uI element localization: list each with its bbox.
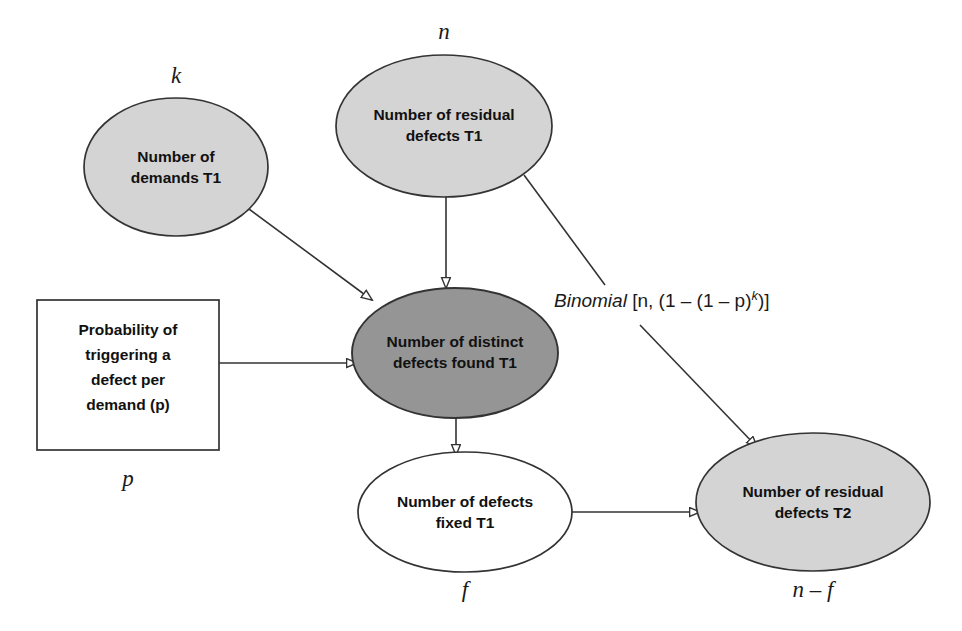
node-residual-t2-line2: defects T2 [775, 504, 852, 521]
node-demands-t1-line2: demands T1 [131, 169, 222, 186]
node-probability-box[interactable]: Probability of triggering a defect per d… [37, 300, 219, 491]
node-residual-t2-line1: Number of residual [742, 483, 883, 500]
edge-residual-t1-to-residual-t2-lower [640, 325, 757, 447]
node-demands-t1-shape[interactable] [84, 98, 268, 236]
node-residual-t2[interactable]: Number of residual defects T2 n – f [696, 433, 930, 602]
node-fixed-t1-line1: Number of defects [397, 493, 533, 510]
node-residual-t2-shape[interactable] [696, 433, 930, 571]
node-residual-t1[interactable]: Number of residual defects T1 n [336, 19, 552, 197]
node-demands-t1[interactable]: Number of demands T1 k [84, 63, 268, 236]
node-distinct-found-t1-line1: Number of distinct [387, 333, 524, 350]
node-demands-t1-line1: Number of [137, 148, 215, 165]
binomial-formula-name: Binomial [554, 290, 627, 311]
node-residual-t1-line1: Number of residual [373, 106, 514, 123]
edge-residual-t1-to-residual-t2-upper [524, 175, 605, 285]
node-probability-box-variable: p [120, 466, 134, 491]
edge-demands-to-distinct [245, 206, 372, 300]
binomial-formula-annotation: Binomial [n, (1 – (1 – p)k)] [551, 288, 773, 313]
node-residual-t1-line2: defects T1 [406, 127, 483, 144]
node-fixed-t1[interactable]: Number of defects fixed T1 f [358, 452, 572, 602]
bayesian-network-graph: Number of demands T1 k Number of residua… [0, 0, 962, 631]
node-distinct-found-t1-line2: defects found T1 [393, 354, 517, 371]
node-distinct-found-t1-shape[interactable] [352, 288, 558, 418]
node-probability-box-line4: demand (p) [86, 396, 170, 413]
node-residual-t1-variable: n [438, 19, 450, 44]
node-residual-t2-variable: n – f [793, 577, 838, 602]
node-fixed-t1-line2: fixed T1 [436, 514, 495, 531]
node-distinct-found-t1[interactable]: Number of distinct defects found T1 [352, 288, 558, 418]
node-fixed-t1-variable: f [462, 577, 472, 602]
binomial-formula-tail: )] [758, 290, 770, 311]
node-probability-box-line3: defect per [91, 371, 165, 388]
node-fixed-t1-shape[interactable] [358, 452, 572, 572]
diagram-canvas: Number of demands T1 k Number of residua… [0, 0, 962, 631]
binomial-formula-expression: [n, (1 – (1 – p) [627, 290, 752, 311]
node-probability-box-line2: triggering a [85, 346, 171, 363]
node-probability-box-line1: Probability of [78, 321, 178, 338]
node-demands-t1-variable: k [171, 63, 182, 88]
node-residual-t1-shape[interactable] [336, 55, 552, 197]
